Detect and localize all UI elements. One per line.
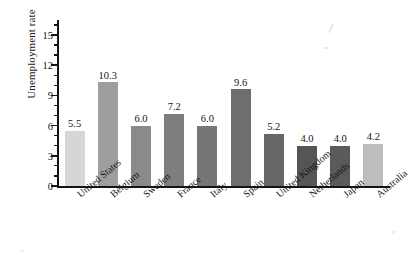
y-tick-minor xyxy=(54,44,59,45)
bar: 4.2 xyxy=(363,144,383,186)
y-tick-label: 3 xyxy=(48,150,53,161)
bar-value-label: 6.0 xyxy=(134,113,147,124)
bar-value-label: 6.0 xyxy=(201,113,214,124)
bar: 9.6 xyxy=(231,89,251,186)
y-tick-minor xyxy=(54,165,59,166)
y-tick-minor xyxy=(54,135,59,136)
bar: 5.5 xyxy=(65,131,85,186)
bar-value-label: 4.0 xyxy=(334,133,347,144)
bar: 5.2 xyxy=(264,134,284,186)
y-tick-label: 15 xyxy=(43,30,54,41)
y-tick-label: 9 xyxy=(48,90,53,101)
bar-body xyxy=(197,126,217,186)
bar-body xyxy=(363,144,383,186)
y-tick-minor xyxy=(54,85,59,86)
scan-speckle xyxy=(20,250,24,252)
y-tick-minor xyxy=(54,54,59,55)
bar-value-label: 4.2 xyxy=(367,131,380,142)
y-tick-label: 12 xyxy=(43,60,54,71)
bar-value-label: 7.2 xyxy=(168,101,181,112)
bar-value-label: 5.5 xyxy=(68,118,81,129)
bar-value-label: 9.6 xyxy=(234,77,247,88)
bar-value-label: 10.3 xyxy=(99,70,117,81)
bar-body xyxy=(231,89,251,186)
y-tick-minor xyxy=(54,175,59,176)
scan-speckle xyxy=(392,231,395,234)
plot-area: 03691215 5.510.36.07.26.09.65.24.04.04.2 xyxy=(58,20,390,186)
y-tick-minor xyxy=(54,75,59,76)
y-tick-label: 6 xyxy=(48,120,53,131)
y-axis-title: Unemployment rate xyxy=(25,0,37,129)
bar: 6.0 xyxy=(197,126,217,186)
y-tick-minor xyxy=(54,105,59,106)
y-tick-minor xyxy=(54,24,59,25)
bar-body xyxy=(264,134,284,186)
bar-body xyxy=(65,131,85,186)
y-tick-minor xyxy=(54,115,59,116)
y-tick-minor xyxy=(54,145,59,146)
y-tick-label: 0 xyxy=(48,181,53,192)
bar-chart-figure: Unemployment rate 03691215 5.510.36.07.2… xyxy=(0,0,412,262)
bar-value-label: 5.2 xyxy=(267,121,280,132)
bar-value-label: 4.0 xyxy=(300,133,313,144)
